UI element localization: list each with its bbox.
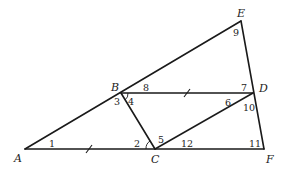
angle-label-4: 4: [128, 96, 134, 107]
angle-label-11: 11: [249, 138, 261, 149]
angle-label-6: 6: [225, 97, 231, 108]
angle-label-12: 12: [181, 138, 193, 149]
segment-CD: [155, 93, 253, 149]
angle-label-3: 3: [114, 96, 120, 107]
label-D: D: [258, 82, 268, 95]
label-B: B: [110, 81, 119, 94]
angle-label-7: 7: [241, 82, 247, 93]
label-E: E: [236, 7, 245, 20]
angle-arc-2: [146, 141, 150, 149]
label-C: C: [151, 153, 160, 166]
geometry-diagram: A B C D E F 1 2 3 4 5 6 7 8 9 10 11 12: [0, 0, 287, 171]
angle-label-2: 2: [134, 138, 140, 149]
angle-label-1: 1: [49, 138, 55, 149]
label-A: A: [13, 152, 22, 165]
angle-label-9: 9: [233, 27, 239, 38]
angle-label-10: 10: [243, 102, 255, 113]
angle-label-8: 8: [143, 82, 149, 93]
segment-AE: [25, 21, 241, 149]
angle-label-5: 5: [158, 134, 164, 145]
label-F: F: [265, 153, 274, 166]
